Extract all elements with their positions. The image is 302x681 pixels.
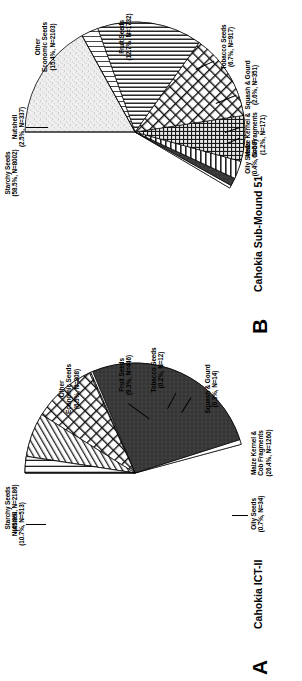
leader-nutshell-b (26, 127, 48, 128)
label-nutshell-a-line1: Nutshell (11, 491, 18, 557)
label-oily-a: Oily Seeds (0.7%, N=34) (250, 483, 265, 545)
label-fruit-a-line1: Fruit Seeds (118, 343, 125, 407)
label-oily-a-line1: Oily Seeds (250, 483, 257, 545)
label-other-a-line3: (6.5%, N=308) (73, 348, 80, 430)
label-other-b-line1: Other (34, 6, 41, 88)
panel-a-rotated-canvas: A Cahokia ICT-II (0, 341, 302, 681)
label-oily-b: Oily Seeds (0.4%, N=58) (244, 127, 259, 189)
leader-nutshell-a (26, 524, 46, 525)
label-nutshell-b: Nutshell (2.5%, N=337) (11, 94, 26, 160)
label-maize-a-line1: Maize Kernel & (250, 413, 257, 493)
label-squash-a: Squash & Gourd (0.3%, N=14) (204, 349, 219, 429)
label-other-a-line1: Other (58, 348, 65, 430)
panel-letter-a: A (248, 660, 272, 675)
label-other-b: Other Economic Seeds (15.4%, N=2103) (34, 6, 56, 88)
label-tobacco-b-line2: (6.7%, N=917) (227, 7, 234, 87)
figure-stage: B Cahokia Sub-Mound 51 (0, 0, 302, 681)
label-tobacco-a-line2: (0.2%, N=12) (157, 333, 164, 407)
panel-b: B Cahokia Sub-Mound 51 (0, 0, 302, 340)
label-maize-b-line3: (1.2%, N=171) (259, 96, 266, 174)
leader-oily-a (232, 515, 248, 516)
label-other-a: Other Economic Seeds (6.5%, N=308) (58, 348, 80, 430)
label-nutshell-b-line2: (2.5%, N=337) (18, 94, 25, 160)
label-fruit-a: Fruit Seeds (9.3%, N=446) (118, 343, 133, 407)
label-squash-a-line2: (0.3%, N=14) (211, 349, 218, 429)
label-oily-a-line2: (0.7%, N=34) (257, 483, 264, 545)
panel-title-b: Cahokia Sub-Mound 51 (252, 176, 264, 292)
label-maize-a: Maize Kernel & Cob Fragments (26.4%, N=1… (250, 413, 272, 493)
label-nutshell-b-line1: Nutshell (11, 94, 18, 160)
label-oily-b-line2: (0.4%, N=58) (251, 127, 258, 189)
label-tobacco-a-line1: Tobacco Seeds (150, 333, 157, 407)
label-other-b-line3: (15.4%, N=2103) (49, 6, 56, 88)
label-fruit-b: Fruit Seeds (12.7%, N=1732) (118, 2, 133, 72)
panel-b-rotated-canvas: B Cahokia Sub-Mound 51 (0, 0, 302, 340)
label-other-a-line2: Economic Seeds (65, 348, 72, 430)
panel-title-a: Cahokia ICT-II (252, 560, 264, 629)
label-tobacco-b: Tobacco Seeds (6.7%, N=917) (220, 7, 235, 87)
panel-letter-b: B (248, 319, 272, 334)
label-fruit-a-line2: (9.3%, N=446) (125, 343, 132, 407)
panel-a: A Cahokia ICT-II (0, 341, 302, 681)
label-nutshell-a: Nutshell (10.7%, N=513) (11, 491, 26, 557)
label-tobacco-a: Tobacco Seeds (0.2%, N=12) (150, 333, 165, 407)
label-squash-a-line1: Squash & Gourd (204, 349, 211, 429)
label-fruit-b-line1: Fruit Seeds (118, 2, 125, 72)
label-maize-a-line3: (26.4%, N=1260) (265, 413, 272, 493)
label-tobacco-b-line1: Tobacco Seeds (220, 7, 227, 87)
label-nutshell-a-line2: (10.7%, N=513) (18, 491, 25, 557)
label-maize-a-line2: Cob Fragments (257, 413, 264, 493)
label-other-b-line2: Economic Seeds (41, 6, 48, 88)
label-oily-b-line1: Oily Seeds (244, 127, 251, 189)
label-fruit-b-line2: (12.7%, N=1732) (125, 2, 132, 72)
